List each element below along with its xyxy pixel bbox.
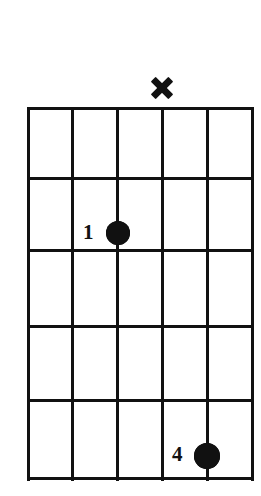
fret-line-1 — [27, 177, 254, 180]
chord-diagram: 1 4 — [0, 0, 261, 496]
finger-dot-1 — [106, 221, 130, 245]
string-line-5 — [71, 108, 74, 481]
finger-label-1: 1 — [83, 222, 94, 243]
fret-line-4 — [27, 399, 254, 402]
string-line-2 — [206, 108, 209, 481]
finger-dot-4 — [194, 443, 220, 469]
string-line-1 — [251, 108, 254, 481]
fret-line-2 — [27, 249, 254, 252]
string-line-6 — [27, 108, 30, 481]
string-line-3 — [161, 108, 164, 481]
fret-line-3 — [27, 325, 254, 328]
finger-label-4: 4 — [172, 444, 183, 465]
mute-x-icon — [149, 75, 175, 101]
string-line-4 — [116, 108, 119, 481]
fret-line-5 — [27, 477, 254, 480]
fret-line-nut — [27, 107, 254, 110]
